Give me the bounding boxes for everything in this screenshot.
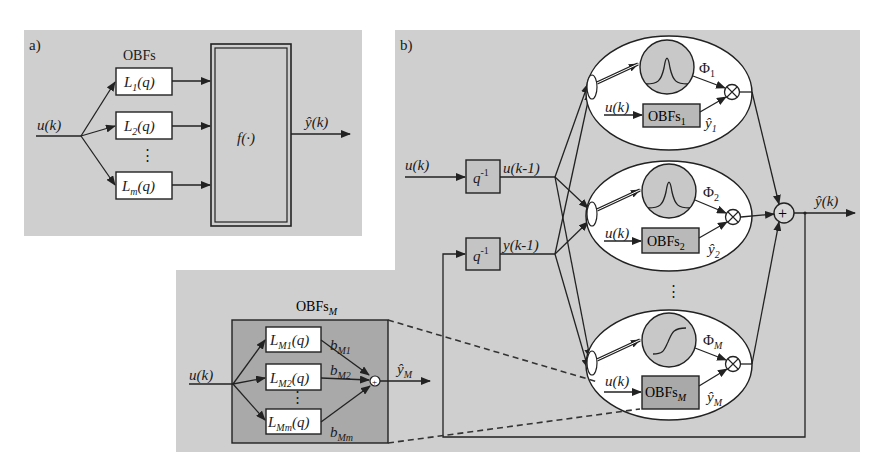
local-model-1: Φ1 u(k) OBFs1 ŷ1 [586,36,752,150]
output-tap-point [803,211,806,214]
panel-b-tag: b) [400,37,413,54]
svg-text:+: + [778,205,787,222]
detail-ellipsis: ⋮ [290,389,305,405]
detail-filter-mm: LMm(q) [266,409,321,434]
nonlinear-function-label: f(·) [237,130,255,147]
scheduling-input-node-m [587,351,597,375]
svg-text:u(k): u(k) [605,99,629,116]
panel-a-tag: a) [29,37,41,54]
delay-block-u: q-1 [466,160,500,193]
panel-a: a) OBFs u(k) L1(q) L2(q) ⋮ Lm(q) f(·) [24,30,362,236]
detail-filter-m2: LM2(q) [266,364,321,390]
scheduling-input-node-2 [587,202,597,226]
filter-block-l2: L2(q) [116,112,172,139]
filter-block-lm: Lm(q) [116,172,172,199]
delay-input-label: u(k) [405,157,429,174]
delay-block-y: q-1 [466,238,500,270]
obfs-group-label: OBFs [123,48,156,63]
local-model-ellipsis: ⋮ [666,283,681,299]
output-label: ŷ(k) [303,114,328,131]
summation-node: + [774,203,794,223]
delayed-input-label: u(k-1) [503,160,540,177]
svg-text:u(k): u(k) [605,373,629,390]
input-label: u(k) [37,117,61,134]
local-model-m: ΦM u(k) OBFsM ŷM [586,310,752,420]
panel-a-background [24,30,362,236]
filter-ellipsis: ⋮ [140,147,155,163]
model-output-label: ŷ(k) [813,193,838,210]
detail-filter-m1: LM1(q) [266,327,321,352]
delayed-output-label: y(k-1) [501,237,539,254]
scheduling-input-node-1 [587,75,597,99]
svg-text:+: + [372,377,377,387]
filter-block-l1: L1(q) [116,68,172,95]
detail-input-label: u(k) [189,367,213,384]
gaussian-activation-icon [642,164,696,218]
diagram-canvas: a) OBFs u(k) L1(q) L2(q) ⋮ Lm(q) f(·) [0,0,883,474]
gaussian-activation-icon [640,40,694,94]
svg-text:u(k): u(k) [605,225,629,242]
detail-sum-node: + [370,376,380,387]
